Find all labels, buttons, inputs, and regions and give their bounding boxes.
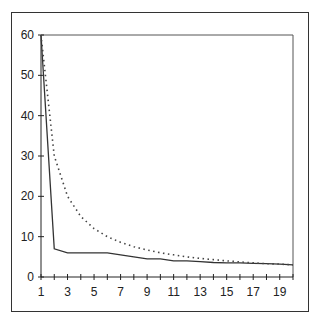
y-tick-label: 10: [21, 230, 35, 244]
y-tick-label: 0: [27, 270, 34, 284]
x-tick-label: 13: [193, 285, 207, 299]
y-tick-label: 60: [21, 28, 35, 42]
x-tick-label: 3: [64, 285, 71, 299]
x-tick-label: 15: [220, 285, 234, 299]
series-solid-line: [41, 35, 293, 265]
y-tick-label: 40: [21, 109, 35, 123]
x-tick-label: 11: [167, 285, 180, 299]
y-tick-label: 20: [21, 189, 35, 203]
x-tick-label: 7: [117, 285, 124, 299]
y-tick-label: 50: [21, 68, 35, 82]
x-tick-label: 5: [91, 285, 98, 299]
x-tick-label: 1: [38, 285, 45, 299]
x-tick-label: 9: [144, 285, 151, 299]
x-tick-label: 19: [273, 285, 287, 299]
line-chart: 0102030405060135791113151719: [0, 0, 317, 324]
x-tick-label: 17: [247, 285, 261, 299]
y-tick-label: 30: [21, 149, 35, 163]
series-dotted-line: [41, 35, 293, 265]
